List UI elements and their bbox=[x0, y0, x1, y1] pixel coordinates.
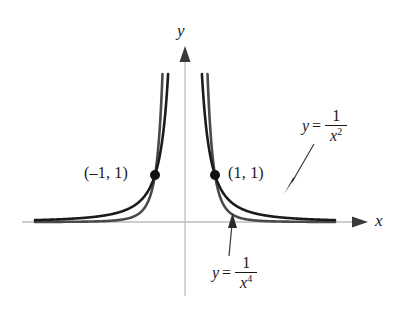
equation-denominator-x4: x4 bbox=[236, 273, 256, 291]
data-point-marker-minus1-1 bbox=[150, 170, 160, 180]
equation-lhs-x4: y bbox=[212, 265, 219, 281]
equation-equals-x2: = bbox=[312, 118, 321, 134]
equation-label-y-1-over-x2: y = 1 x2 bbox=[302, 108, 347, 144]
point-label-minus1-1: (–1, 1) bbox=[84, 165, 128, 181]
graph-figure: y x (–1, 1) (1, 1) y = 1 x2 y = 1 x4 bbox=[0, 0, 404, 313]
equation-numerator-x4: 1 bbox=[238, 255, 254, 272]
annotation-arrowhead-x2 bbox=[284, 177, 296, 194]
annotation-arrow-line-x4 bbox=[229, 224, 232, 256]
function-plot-svg bbox=[0, 0, 404, 313]
equation-denominator-exponent-x4: 4 bbox=[247, 273, 252, 284]
equation-equals-x4: = bbox=[222, 265, 231, 281]
y-axis-arrowhead bbox=[180, 46, 191, 62]
equation-fraction-x2: 1 x2 bbox=[325, 108, 347, 144]
point-label-1-1: (1, 1) bbox=[228, 165, 264, 181]
equation-numerator-x2: 1 bbox=[328, 108, 344, 125]
x-axis-label: x bbox=[375, 212, 383, 229]
annotation-arrows-group bbox=[228, 144, 314, 256]
axes-group bbox=[22, 46, 368, 296]
equation-denominator-exponent-x2: 2 bbox=[337, 126, 342, 137]
equation-denominator-x2: x2 bbox=[326, 126, 346, 144]
equation-lhs-x2: y bbox=[302, 118, 309, 134]
equation-fraction-x4: 1 x4 bbox=[235, 255, 257, 291]
y-axis-label: y bbox=[177, 22, 185, 39]
x-axis-arrowhead bbox=[352, 217, 368, 228]
annotation-arrow-line-x2 bbox=[292, 144, 314, 182]
equation-label-y-1-over-x4: y = 1 x4 bbox=[212, 255, 257, 291]
data-point-marker-1-1 bbox=[210, 170, 220, 180]
curve-y-equals-1-over-x4-left-branch bbox=[35, 74, 162, 222]
curve-y-equals-1-over-x4-right-branch bbox=[208, 74, 335, 222]
